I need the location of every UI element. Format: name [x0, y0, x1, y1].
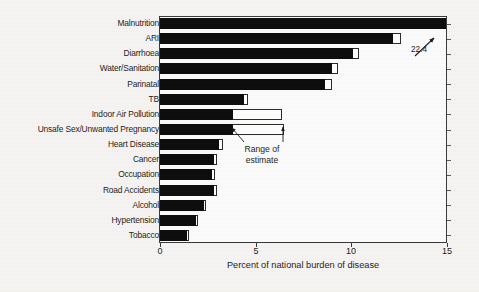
category-label: Hypertension: [111, 216, 159, 224]
bar-value: [160, 185, 214, 196]
bar-value: [160, 124, 233, 135]
category-axis-labels: MalnutritionARIDiarrhoeaWater/Sanitation…: [0, 0, 159, 292]
x-axis-tick-label: 5: [253, 247, 258, 256]
category-label: Diarrhoea: [124, 49, 159, 57]
category-label: Water/Sanitation: [100, 64, 159, 72]
category-label: ARI: [145, 34, 159, 42]
category-label: Indoor Air Pollution: [92, 110, 159, 118]
category-label: Malnutrition: [118, 19, 160, 27]
y-axis-tick: [447, 220, 451, 221]
category-label: Cancer: [133, 155, 159, 163]
category-label: Road Accidents: [103, 186, 159, 194]
bar-row: [160, 48, 359, 59]
bar-value: [160, 230, 187, 241]
bar-value: [160, 215, 196, 226]
bar-row: [160, 215, 198, 226]
category-label: Unsafe Sex/Unwanted Pregnancy: [38, 125, 159, 133]
bar-row: [160, 154, 217, 165]
bar-row: [160, 169, 215, 180]
y-axis-tick: [447, 84, 451, 85]
bar-value: [160, 18, 446, 29]
bar-row: [160, 94, 248, 105]
bar-value: [160, 94, 244, 105]
x-axis-tick-label: 0: [157, 247, 162, 256]
y-axis-tick: [447, 54, 451, 55]
bar-value: [160, 63, 332, 74]
x-axis-title: Percent of national burden of disease: [159, 261, 447, 270]
bar-value: [160, 33, 393, 44]
bar-value: [160, 48, 353, 59]
bar-row: [160, 33, 401, 44]
bar-row: [160, 124, 284, 135]
category-label: TB: [149, 95, 159, 103]
y-axis-tick: [447, 160, 451, 161]
bar-row: [160, 185, 217, 196]
category-label: Tobacco: [129, 231, 159, 239]
bar-row: [160, 200, 206, 211]
category-label: Alcohol: [133, 201, 159, 209]
range-of-estimate-annotation: Range of estimate: [233, 144, 291, 165]
x-axis-tick-label: 15: [442, 247, 452, 256]
bar-value: [160, 109, 233, 120]
y-axis-tick: [447, 145, 451, 146]
y-axis-tick: [447, 69, 451, 70]
bar-row: [160, 18, 446, 29]
y-axis-tick: [447, 205, 451, 206]
category-label: Heart Disease: [108, 140, 159, 148]
range-annotation-line1: Range of: [245, 144, 280, 154]
bar-row: [160, 79, 332, 90]
bar-row: [160, 63, 338, 74]
range-annotation-line2: estimate: [246, 155, 278, 165]
y-axis-tick: [447, 39, 451, 40]
bar-value: [160, 79, 325, 90]
bar-row: [160, 230, 189, 241]
y-axis-tick: [447, 190, 451, 191]
x-axis-tick-label: 10: [346, 247, 356, 256]
bar-value: [160, 154, 214, 165]
bar-row: [160, 139, 223, 150]
category-label: Occupation: [118, 170, 159, 178]
category-label: Parinatal: [127, 80, 159, 88]
overflow-value-annotation: 22.4: [411, 46, 427, 54]
y-axis-tick: [447, 130, 451, 131]
horizontal-bar-chart: MalnutritionARIDiarrhoeaWater/Sanitation…: [0, 0, 479, 292]
bar-value: [160, 139, 219, 150]
bar-value: [160, 169, 212, 180]
y-axis-tick: [447, 175, 451, 176]
bar-row: [160, 109, 282, 120]
y-axis-tick: [447, 114, 451, 115]
y-axis-tick: [447, 235, 451, 236]
y-axis-tick: [447, 99, 451, 100]
y-axis-tick: [447, 24, 451, 25]
bar-value: [160, 200, 204, 211]
